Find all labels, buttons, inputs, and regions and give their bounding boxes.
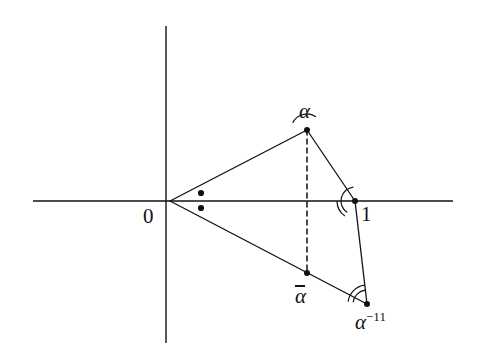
label-alpha-bar: α	[295, 284, 306, 307]
vertex-dot-alpha-bar	[304, 270, 310, 276]
vertex-dot-alpha	[304, 127, 310, 133]
figure-canvas: 0α1αα−11	[0, 0, 478, 360]
label-one: 1	[361, 204, 372, 225]
label-alpha-inverse-glyph: α	[355, 310, 366, 334]
label-alpha-inverse-exponent: −11	[366, 309, 386, 324]
segments-group	[170, 130, 367, 304]
label-origin: 0	[143, 206, 154, 227]
diagram-svg	[0, 0, 478, 360]
arc-at-one	[341, 187, 353, 213]
vertex-dot-alpha-inverse	[364, 301, 370, 307]
label-alpha-glyph: α	[299, 99, 310, 123]
label-alpha: α	[299, 101, 310, 122]
label-alpha-inverse: α−11	[355, 310, 386, 333]
axes-group	[33, 26, 453, 343]
angle-dot-upper	[198, 190, 204, 196]
label-origin-glyph: 0	[143, 204, 154, 228]
segment-alpha-to-one	[307, 130, 355, 201]
label-one-glyph: 1	[361, 202, 372, 226]
segment-origin-to-alpha	[170, 130, 307, 201]
segment-origin-to-alpha-inverse	[170, 201, 367, 304]
angle-arcs-group	[293, 114, 366, 302]
label-alpha-bar-glyph: α	[295, 284, 306, 307]
vertex-dot-one	[352, 198, 358, 204]
angle-dot-lower	[198, 205, 204, 211]
arc-at-alpha-inverse-outer	[348, 285, 365, 302]
